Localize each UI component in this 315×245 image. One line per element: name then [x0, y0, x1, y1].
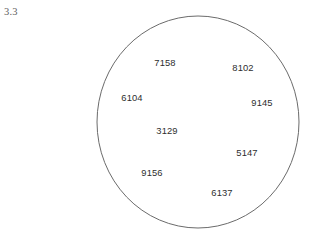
data-point-label: 6137	[211, 187, 232, 198]
data-point-label: 5147	[236, 147, 257, 158]
data-point-label: 3129	[156, 125, 177, 136]
data-point-label: 9156	[141, 167, 162, 178]
circle-outline	[97, 16, 299, 228]
data-point-label: 9145	[251, 97, 272, 108]
data-point-label: 8102	[232, 62, 253, 73]
data-point-label: 6104	[121, 92, 142, 103]
data-point-label: 7158	[154, 57, 175, 68]
circle-outline-svg	[0, 0, 315, 245]
figure-canvas: 3.3 71588102610491453129514791566137	[0, 0, 315, 245]
